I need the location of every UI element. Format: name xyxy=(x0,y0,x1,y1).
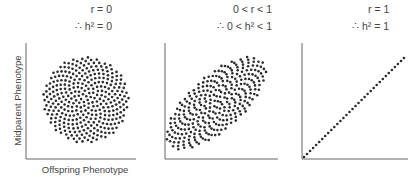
panel1-r-label: r = 0 xyxy=(91,3,112,15)
dots-group xyxy=(42,56,405,159)
panel3-h2-label: ∴ h² = 1 xyxy=(352,20,389,32)
panel3-r-label: r = 1 xyxy=(368,3,389,15)
y-axis-label: Midparent Phenotype xyxy=(12,46,23,156)
panel1-h2-label: ∴ h² = 0 xyxy=(75,20,112,32)
panel2-r-label: 0 < r < 1 xyxy=(233,3,272,15)
panel2-h2-label: ∴ 0 < h² < 1 xyxy=(217,20,272,32)
x-axis-label: Offspring Phenotype xyxy=(35,164,135,175)
